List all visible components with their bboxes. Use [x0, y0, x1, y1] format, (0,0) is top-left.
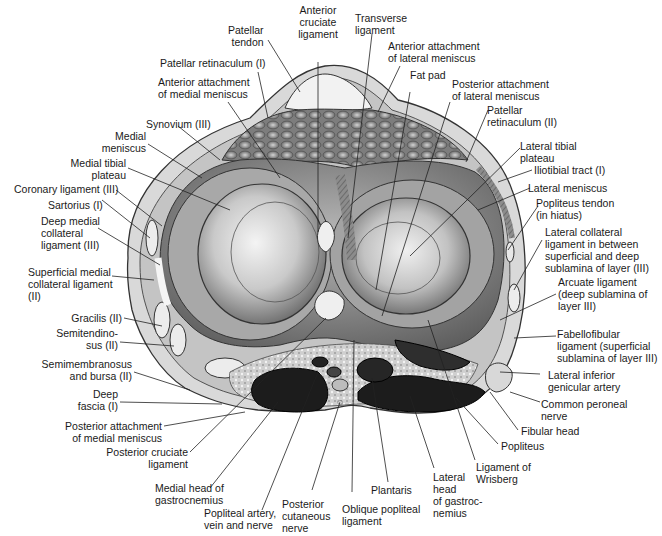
label-semimembranosus-and-bursa-ii: Semimembranosus and bursa (II) — [20, 358, 132, 382]
label-anterior-attachment-medial-meniscus: Anterior attachment of medial meniscus — [158, 76, 250, 100]
label-posterior-attachment-lateral-meniscus: Posterior attachment of lateral meniscus — [452, 78, 549, 102]
label-posterior-attachment-medial-meniscus: Posterior attachment of medial meniscus — [40, 420, 162, 444]
label-medial-meniscus: Medial meniscus — [96, 130, 146, 154]
label-posterior-cutaneous-nerve: Posterior cutaneous nerve — [282, 498, 330, 534]
label-fat-pad: Fat pad — [410, 69, 446, 81]
label-popliteus: Popliteus — [501, 440, 544, 452]
label-transverse-ligament: Transverse ligament — [355, 12, 407, 36]
plantaris-shape — [357, 358, 393, 382]
label-iliotibial-tract-i: Iliotibial tract (I) — [534, 164, 605, 176]
popliteal-vessel-1 — [312, 357, 328, 367]
label-fibular-head: Fibular head — [521, 425, 579, 437]
gracilis-shape — [154, 302, 170, 338]
semitendinosus-shape — [170, 324, 186, 356]
label-popliteal-artery-vein-nerve: Popliteal artery, vein and nerve — [204, 507, 276, 531]
label-lateral-collateral-ligament: Lateral collateral ligament in between s… — [545, 226, 649, 274]
lcl-shape — [508, 284, 520, 312]
label-anterior-attachment-lateral-meniscus: Anterior attachment of lateral meniscus — [388, 40, 480, 64]
label-anterior-cruciate-ligament: Anterior cruciate ligament — [294, 4, 342, 40]
sartorius-shape — [146, 220, 158, 256]
label-lateral-meniscus: Lateral meniscus — [528, 182, 607, 194]
label-deep-fascia-i: Deep fascia (I) — [40, 388, 118, 412]
label-oblique-popliteal-ligament: Oblique popliteal ligament — [342, 503, 420, 527]
popliteal-vessel-2 — [327, 367, 341, 377]
fibular-head-shape — [485, 363, 512, 392]
label-superficial-medial-collateral-ligament-ii: Superficial medial collateral ligament (… — [28, 266, 113, 302]
label-semitendinosus-ii: Semitendino- sus (II) — [40, 327, 118, 351]
label-popliteus-tendon: Popliteus tendon (in hiatus) — [536, 197, 614, 221]
label-synovium-iii: Synovium (III) — [146, 118, 211, 130]
medial-gastrocnemius-shape — [252, 368, 328, 412]
label-common-peroneal-nerve: Common peroneal nerve — [541, 398, 627, 422]
label-deep-medial-collateral-ligament-iii: Deep medial collateral ligament (III) — [41, 215, 100, 251]
label-ligament-of-wrisberg: Ligament of Wrisberg — [476, 461, 531, 485]
label-medial-tibial-plateau: Medial tibial plateau — [60, 157, 126, 181]
label-posterior-cruciate-ligament: Posterior cruciate ligament — [80, 446, 188, 470]
label-medial-head-gastrocnemius: Medial head of gastrocnemius — [155, 482, 224, 506]
label-coronary-ligament-iii: Coronary ligament (III) — [14, 183, 118, 195]
label-sartorius-i: Sartorius (I) — [48, 199, 103, 211]
label-patellar-retinaculum-ii: Patellar retinaculum (II) — [487, 104, 557, 128]
popliteal-vessel-3 — [332, 379, 348, 391]
label-arcuate-ligament: Arcuate ligament (deep sublamina of laye… — [558, 276, 647, 312]
label-patellar-tendon: Patellar tendon — [228, 24, 264, 48]
label-lateral-tibial-plateau: Lateral tibial plateau — [520, 140, 577, 164]
popliteus-tendon-shape — [506, 242, 514, 262]
label-fabellofibular-ligament: Fabellofibular ligament (superficial sub… — [557, 328, 657, 364]
label-gracilis-ii: Gracilis (II) — [40, 312, 122, 324]
label-patellar-retinaculum-i: Patellar retinaculum (I) — [160, 57, 266, 69]
label-lateral-inferior-genicular-artery: Lateral inferior genicular artery — [548, 369, 620, 393]
label-plantaris: Plantaris — [371, 484, 412, 496]
